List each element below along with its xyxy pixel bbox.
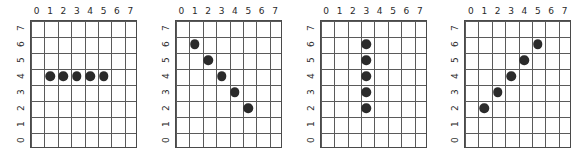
y-tick-label: 6 <box>13 37 29 51</box>
data-point-marker <box>533 39 543 49</box>
grid-background <box>30 20 137 148</box>
x-tick-label: 7 <box>124 4 137 18</box>
data-point-marker <box>506 71 516 81</box>
y-tick-label: 7 <box>13 21 29 35</box>
y-tick-label: 1 <box>447 117 463 131</box>
data-point-marker <box>59 71 69 81</box>
x-tick-label: 6 <box>110 4 123 18</box>
scatter-panel-4: 0123456776543210 <box>434 0 579 156</box>
y-tick-label: 7 <box>447 21 463 35</box>
x-tick-label: 3 <box>215 4 228 18</box>
grid-background <box>175 20 282 148</box>
data-point-marker <box>217 71 227 81</box>
y-axis-ticks: 76543210 <box>14 20 28 148</box>
x-tick-label: 3 <box>70 4 83 18</box>
y-tick-label: 6 <box>158 37 174 51</box>
y-tick-label: 5 <box>303 53 319 67</box>
y-tick-label: 6 <box>303 37 319 51</box>
x-axis-ticks: 01234567 <box>320 4 427 18</box>
x-tick-label: 1 <box>333 4 346 18</box>
x-tick-label: 1 <box>43 4 56 18</box>
x-axis-ticks: 01234567 <box>464 4 571 18</box>
x-tick-label: 2 <box>202 4 215 18</box>
scatter-panel-2: 0123456776543210 <box>145 0 290 156</box>
x-tick-label: 0 <box>464 4 477 18</box>
scatter-panel-1: 0123456776543210 <box>0 0 145 156</box>
y-tick-label: 4 <box>13 69 29 83</box>
y-tick-label: 3 <box>158 85 174 99</box>
data-point-marker <box>203 55 213 65</box>
data-point-marker <box>362 71 372 81</box>
x-tick-label: 7 <box>413 4 426 18</box>
x-tick-label: 3 <box>360 4 373 18</box>
plot-area <box>175 20 282 148</box>
data-point-marker <box>480 103 490 113</box>
y-axis-ticks: 76543210 <box>448 20 462 148</box>
grid-background <box>320 20 427 148</box>
x-tick-label: 1 <box>188 4 201 18</box>
y-tick-label: 6 <box>447 37 463 51</box>
data-point-marker <box>230 87 240 97</box>
y-tick-label: 5 <box>158 53 174 67</box>
x-tick-label: 7 <box>268 4 281 18</box>
y-tick-label: 7 <box>303 21 319 35</box>
x-tick-label: 2 <box>57 4 70 18</box>
x-tick-label: 2 <box>346 4 359 18</box>
x-tick-label: 1 <box>478 4 491 18</box>
y-tick-label: 3 <box>13 85 29 99</box>
y-tick-label: 4 <box>447 69 463 83</box>
y-tick-label: 2 <box>303 101 319 115</box>
grid-background <box>464 20 571 148</box>
x-tick-label: 4 <box>373 4 386 18</box>
y-tick-label: 2 <box>13 101 29 115</box>
y-tick-label: 4 <box>158 69 174 83</box>
data-point-marker <box>85 71 95 81</box>
data-point-marker <box>362 55 372 65</box>
plot-area <box>30 20 137 148</box>
y-tick-label: 0 <box>447 133 463 147</box>
data-point-marker <box>362 103 372 113</box>
data-point-marker <box>244 103 254 113</box>
data-point-marker <box>45 71 55 81</box>
x-tick-label: 4 <box>518 4 531 18</box>
y-tick-label: 0 <box>158 133 174 147</box>
y-tick-label: 1 <box>158 117 174 131</box>
data-point-marker <box>72 71 82 81</box>
y-tick-label: 7 <box>158 21 174 35</box>
x-tick-label: 4 <box>228 4 241 18</box>
x-tick-label: 0 <box>320 4 333 18</box>
y-tick-label: 2 <box>447 101 463 115</box>
y-axis-ticks: 76543210 <box>304 20 318 148</box>
data-point-marker <box>362 39 372 49</box>
plot-area <box>464 20 571 148</box>
y-tick-label: 1 <box>13 117 29 131</box>
data-point-marker <box>99 71 109 81</box>
y-tick-label: 3 <box>447 85 463 99</box>
scatter-panel-figure: 0123456776543210012345677654321001234567… <box>0 0 579 156</box>
y-tick-label: 1 <box>303 117 319 131</box>
x-tick-label: 0 <box>30 4 43 18</box>
x-tick-label: 5 <box>97 4 110 18</box>
y-tick-label: 3 <box>303 85 319 99</box>
y-tick-label: 0 <box>13 133 29 147</box>
x-tick-label: 6 <box>255 4 268 18</box>
x-tick-label: 4 <box>84 4 97 18</box>
x-tick-label: 2 <box>491 4 504 18</box>
x-axis-ticks: 01234567 <box>175 4 282 18</box>
y-tick-label: 4 <box>303 69 319 83</box>
data-point-marker <box>362 87 372 97</box>
y-tick-label: 2 <box>158 101 174 115</box>
x-tick-label: 0 <box>175 4 188 18</box>
data-point-marker <box>190 39 200 49</box>
scatter-panel-3: 0123456776543210 <box>290 0 435 156</box>
plot-area <box>320 20 427 148</box>
x-tick-label: 5 <box>386 4 399 18</box>
y-tick-label: 5 <box>13 53 29 67</box>
x-axis-ticks: 01234567 <box>30 4 137 18</box>
y-axis-ticks: 76543210 <box>159 20 173 148</box>
x-tick-label: 6 <box>400 4 413 18</box>
data-point-marker <box>520 55 530 65</box>
x-tick-label: 5 <box>242 4 255 18</box>
y-tick-label: 5 <box>447 53 463 67</box>
y-tick-label: 0 <box>303 133 319 147</box>
